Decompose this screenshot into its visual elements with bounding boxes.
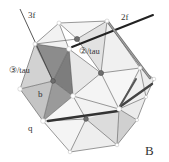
dark-node: [74, 36, 79, 41]
panel-label: B: [145, 143, 154, 158]
label-site-2-tau: ②/tau: [79, 46, 100, 56]
white-node: [68, 150, 72, 154]
label-site-q: q: [28, 123, 33, 133]
white-node: [117, 107, 122, 112]
dark-node: [51, 79, 56, 84]
white-node: [144, 95, 147, 98]
label-3f: 3f: [28, 10, 36, 20]
white-node: [41, 119, 46, 124]
white-node: [33, 42, 37, 46]
icosahedral-cluster-diagram: 3f 2f ②/tau ③/tau b q B: [0, 0, 169, 162]
label-site-b: b: [38, 89, 43, 99]
dark-node: [84, 117, 89, 122]
white-node: [135, 118, 138, 121]
label-2f: 2f: [121, 12, 129, 22]
dark-node: [98, 70, 103, 75]
white-node: [71, 94, 76, 99]
white-node: [67, 47, 72, 52]
white-node: [57, 21, 61, 25]
white-node: [152, 77, 156, 81]
label-site-3-tau: ③/tau: [9, 65, 30, 75]
white-node: [138, 66, 142, 70]
white-node: [115, 143, 119, 147]
white-node: [105, 19, 109, 23]
white-node: [18, 87, 22, 91]
